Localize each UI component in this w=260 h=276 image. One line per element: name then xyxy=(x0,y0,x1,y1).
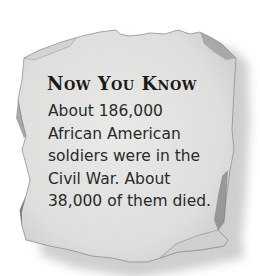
callout-title: Now You Know xyxy=(47,74,227,94)
now-you-know-callout: Now You Know About 186,000 African Ameri… xyxy=(0,0,260,276)
callout-line: Civil War. About xyxy=(48,168,238,191)
callout-line: 38,000 of them died. xyxy=(48,190,238,213)
callout-line: soldiers were in the xyxy=(48,145,238,168)
callout-line: About 186,000 xyxy=(48,100,238,123)
callout-body: About 186,000 African American soldiers … xyxy=(48,100,238,213)
callout-line: African American xyxy=(48,123,238,146)
